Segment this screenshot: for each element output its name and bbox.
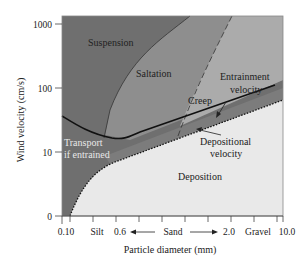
- arrow-left-icon: [130, 230, 136, 235]
- y-axis: [55, 24, 62, 216]
- label-entrainment-1: Entrainment: [220, 71, 270, 82]
- label-entrainment-2: velocity: [230, 84, 262, 95]
- y-tick-1000: 1000: [33, 20, 52, 30]
- label-transport-2: if entrained: [64, 149, 110, 160]
- label-deposition: Deposition: [178, 171, 222, 182]
- x-tick-0-6: 0.6: [114, 227, 126, 237]
- x-tick-gravel: Gravel: [245, 227, 271, 237]
- label-depositional-1: Depositional: [200, 136, 251, 147]
- label-saltation: Saltation: [136, 68, 172, 79]
- x-tick-2-0: 2.0: [223, 227, 235, 237]
- x-tick-silt: Silt: [90, 227, 104, 237]
- label-suspension: Suspension: [88, 37, 134, 48]
- x-axis: [62, 216, 283, 224]
- label-transport-1: Transport: [64, 137, 103, 148]
- label-depositional-2: velocity: [210, 148, 242, 159]
- sediment-transport-diagram: Suspension Saltation Creep Entrainment v…: [0, 0, 305, 266]
- y-axis-label: Wind velocity (cm/s): [15, 78, 27, 163]
- y-tick-0: 0: [47, 212, 52, 222]
- arrow-right-icon: [212, 230, 218, 235]
- y-tick-10: 10: [43, 148, 53, 158]
- label-creep: Creep: [188, 95, 212, 106]
- y-tick-100: 100: [38, 84, 53, 94]
- x-tick-0-10: 0.10: [58, 227, 75, 237]
- x-tick-10-0: 10.0: [279, 227, 296, 237]
- x-axis-label: Particle diameter (mm): [124, 244, 217, 256]
- x-tick-sand: Sand: [164, 227, 183, 237]
